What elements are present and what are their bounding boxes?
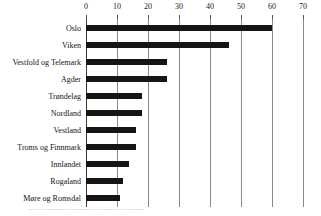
category-label: Troms og Finnmark xyxy=(17,143,81,152)
tick-mark-70 xyxy=(303,15,304,19)
category-label: Agder xyxy=(61,74,81,83)
category-label: Nordland xyxy=(51,109,81,118)
x-tick-label: 60 xyxy=(268,2,276,11)
bar xyxy=(86,178,123,184)
category-label: Oslo xyxy=(66,23,81,32)
caption-strip: ………………………………………… xyxy=(0,207,321,216)
caption-text: ………………………………………… xyxy=(28,207,145,212)
bar xyxy=(86,25,272,31)
x-tick-label: 40 xyxy=(206,2,214,11)
bars xyxy=(86,19,303,207)
x-tick-label: 0 xyxy=(84,2,88,11)
plot-area: 010203040506070 xyxy=(86,19,303,207)
category-label: Vestfold og Telemark xyxy=(12,57,81,66)
category-label: Trøndelag xyxy=(48,91,81,100)
bar xyxy=(86,76,167,82)
category-label: Rogaland xyxy=(50,177,81,186)
x-tick-label: 50 xyxy=(237,2,245,11)
x-tick-label: 20 xyxy=(144,2,152,11)
bar xyxy=(86,144,136,150)
bar xyxy=(86,59,167,65)
category-axis: OsloVikenVestfold og TelemarkAgderTrønde… xyxy=(0,19,84,207)
bar xyxy=(86,195,120,201)
category-label: Vestland xyxy=(53,126,81,135)
x-tick-label: 10 xyxy=(113,2,121,11)
bar xyxy=(86,93,142,99)
category-label: Innlandet xyxy=(51,160,81,169)
bar xyxy=(86,110,142,116)
bar-chart: OsloVikenVestfold og TelemarkAgderTrønde… xyxy=(0,0,321,216)
bar xyxy=(86,127,136,133)
gridline-70 xyxy=(303,19,304,207)
category-label: Møre og Romsdal xyxy=(23,194,81,203)
category-label: Viken xyxy=(62,40,81,49)
bar xyxy=(86,161,129,167)
x-tick-label: 70 xyxy=(299,2,307,11)
x-tick-label: 30 xyxy=(175,2,183,11)
bar xyxy=(86,42,229,48)
